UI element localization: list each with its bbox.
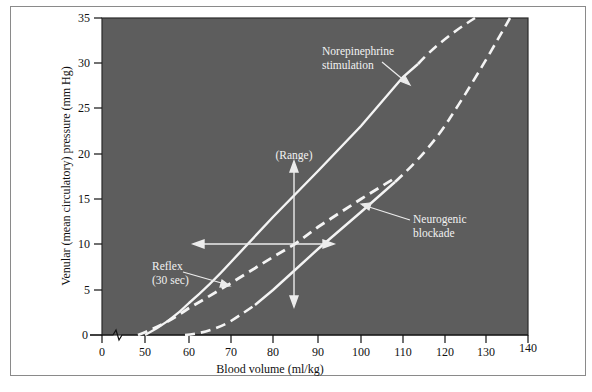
x-tick-120: 120: [436, 345, 454, 359]
y-tick-30: 30: [78, 56, 90, 70]
x-tick-labels: 0 50 60 70 80 90 100 110 120 130 140: [99, 341, 537, 359]
x-tick-60: 60: [183, 345, 195, 359]
x-axis-title: Blood volume (ml/kg): [216, 362, 323, 376]
y-tick-5: 5: [84, 283, 90, 297]
x-tick-80: 80: [267, 345, 279, 359]
x-tick-50: 50: [139, 345, 151, 359]
y-axis-title: Venular (mean circulatory) pressure (mm …: [59, 66, 73, 286]
chart: 35 30 25 20 15 10 5 0 0 50 60 70 80 90 1…: [0, 0, 592, 392]
neurogenic-label-2: blockade: [413, 227, 455, 239]
x-tick-100: 100: [352, 345, 370, 359]
x-tick-90: 90: [312, 345, 324, 359]
y-tick-20: 20: [78, 147, 90, 161]
reflex-label: Reflex: [152, 260, 183, 272]
y-tick-labels: 35 30 25 20 15 10 5 0: [78, 11, 90, 342]
range-label: (Range): [275, 149, 312, 162]
x-tick-110: 110: [394, 345, 412, 359]
plot-area: [102, 18, 528, 335]
norepinephrine-label: Norepinephrine: [322, 45, 394, 58]
x-tick-130: 130: [477, 345, 495, 359]
y-tick-0: 0: [82, 328, 88, 342]
norepinephrine-label-2: stimulation: [322, 59, 374, 71]
neurogenic-label: Neurogenic: [413, 213, 467, 226]
x-tick-140: 140: [519, 341, 537, 355]
y-axis: [90, 18, 102, 335]
x-tick-0: 0: [99, 345, 105, 359]
y-tick-10: 10: [78, 237, 90, 251]
y-tick-35: 35: [78, 11, 90, 25]
reflex-label-2: (30 sec): [152, 274, 189, 287]
y-tick-25: 25: [78, 101, 90, 115]
y-tick-15: 15: [78, 192, 90, 206]
x-tick-70: 70: [225, 345, 237, 359]
